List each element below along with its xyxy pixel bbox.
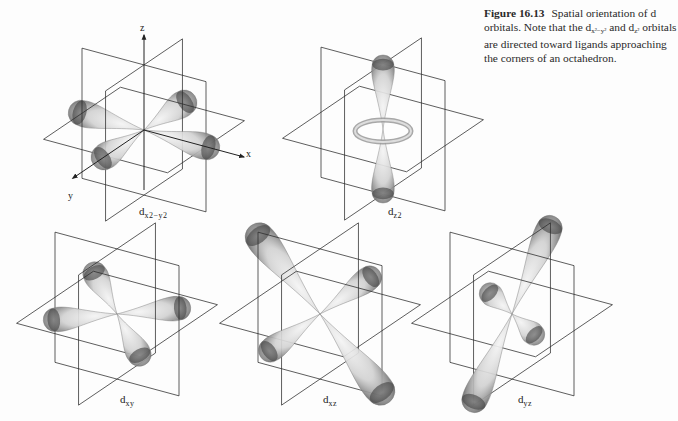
lobe-upper (500, 211, 567, 319)
orbital-diagram-dxy (17, 223, 218, 405)
orbital-prefix: d (120, 393, 126, 405)
orbital-diagram-dx2-y2 (44, 35, 245, 221)
z-axis-label: z (140, 22, 144, 33)
orbital-diagram-dxz (220, 217, 421, 412)
orbital-label-dxz: dxz (323, 393, 337, 405)
orbital-label-dz2: dz2 (388, 205, 402, 217)
lobe-lower (457, 309, 524, 417)
lobe-lower-left (42, 302, 118, 333)
x-axis-label: x (246, 148, 251, 159)
orbital-subscript: x2−y2 (145, 211, 168, 220)
orbital-prefix: d (139, 205, 145, 217)
orbital-prefix: d (518, 393, 524, 405)
orbital-label-dxy: dxy (120, 393, 135, 405)
figure-number: Figure 16.13 (484, 7, 545, 19)
orbital-diagram-dyz (412, 211, 613, 417)
orbital-subscript: yz (524, 399, 533, 408)
caption-sub-1: x²−y² (591, 27, 606, 35)
orbital-label-dyz: dyz (518, 393, 532, 405)
y-axis-label: y (68, 190, 73, 201)
y-axis (73, 130, 144, 178)
lobe-tip-shading (372, 59, 393, 71)
orbital-prefix: d (388, 205, 394, 217)
lobe-upper-right (116, 295, 192, 326)
orbital-subscript: z2 (394, 211, 403, 220)
orbital-subscript: xz (329, 399, 338, 408)
orbital-diagram-dz2 (283, 38, 484, 220)
lobe-tip-shading (372, 188, 393, 200)
caption-text-2: and d (606, 21, 634, 33)
orbital-label-dx2-y2: dx2−y2 (139, 205, 168, 217)
orbital-subscript: xy (126, 399, 135, 408)
figure-caption: Figure 16.13 Spatial orientation of d or… (484, 7, 678, 65)
lobe-upper-left (239, 217, 332, 323)
orbital-prefix: d (323, 393, 329, 405)
